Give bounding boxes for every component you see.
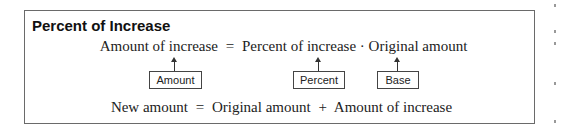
page-margin-marks [552, 0, 558, 131]
formula2-equals: = [192, 99, 208, 115]
formula1-term1: Percent of increase [242, 38, 356, 54]
label-base: Base [377, 71, 419, 89]
label-amount-text: Amount [157, 74, 195, 86]
formula1-dot: · [360, 38, 365, 54]
label-percent-text: Percent [300, 74, 338, 86]
new-amount-formula: New amount = Original amount + Amount of… [27, 99, 536, 116]
formula2-term2: Amount of increase [334, 99, 452, 115]
box-title: Percent of Increase [32, 17, 170, 34]
formula1-equals: = [222, 38, 238, 54]
amount-of-increase-formula: Amount of increase = Percent of increase… [29, 38, 538, 55]
formula2-plus: + [314, 99, 330, 115]
formula1-term2: Original amount [369, 38, 468, 54]
percent-of-increase-box: Percent of Increase Amount of increase =… [24, 10, 535, 124]
formula1-lhs: Amount of increase [100, 38, 218, 54]
label-percent: Percent [293, 71, 345, 89]
formula2-lhs: New amount [111, 99, 188, 115]
formula2-term1: Original amount [212, 99, 311, 115]
label-amount: Amount [149, 71, 202, 89]
label-base-text: Base [385, 74, 410, 86]
